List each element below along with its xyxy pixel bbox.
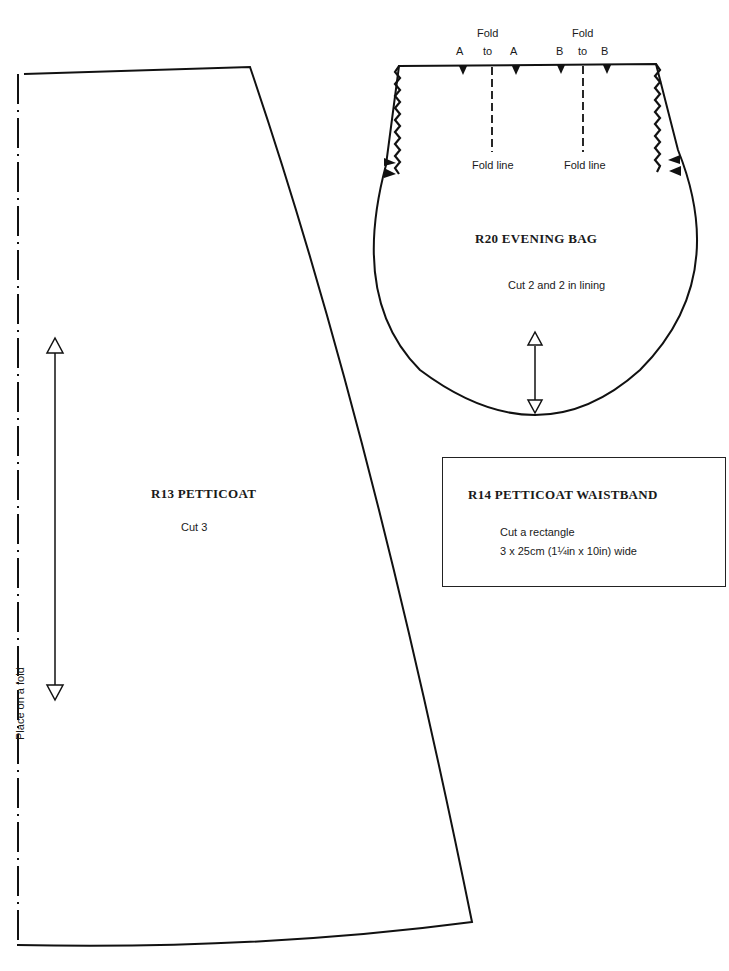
notch-b-right: [603, 65, 611, 74]
fold-a-label: Fold: [477, 27, 498, 39]
waistband-line2: 3 x 25cm (1¼in x 10in) wide: [500, 545, 637, 557]
fold-b-label: Fold: [572, 27, 593, 39]
waistband-line1: Cut a rectangle: [500, 526, 575, 538]
petticoat-grainline-arrow-icon: [47, 338, 63, 700]
right-gather-edge: [655, 64, 660, 172]
notch-markers: [384, 65, 681, 178]
fold-line-b-label: Fold line: [564, 159, 606, 171]
fold-b-letter-right: B: [601, 45, 608, 57]
fold-line-a-label: Fold line: [472, 159, 514, 171]
fold-b-to: to: [578, 45, 587, 57]
petticoat-outline: [17, 67, 472, 946]
evening-bag-title: R20 EVENING BAG: [475, 231, 597, 247]
waistband-title: R14 PETTICOAT WAISTBAND: [468, 487, 658, 503]
notch-a-left: [459, 66, 467, 75]
fold-a-letter-left: A: [456, 45, 463, 57]
notch-side-left-2: [384, 168, 396, 178]
notch-side-left-1: [384, 158, 396, 166]
bag-grainline-arrow-icon: [528, 332, 542, 413]
evening-bag-cut: Cut 2 and 2 in lining: [508, 279, 605, 291]
fold-b-letter-left: B: [556, 45, 563, 57]
place-on-fold-label: Place on a fold: [14, 667, 26, 740]
fold-a-letter-right: A: [510, 45, 517, 57]
notch-a-right: [512, 66, 520, 75]
notch-b-left: [557, 65, 565, 74]
waistband-box: [442, 457, 726, 587]
petticoat-cut: Cut 3: [181, 521, 207, 533]
notch-side-right-2: [669, 166, 681, 176]
fold-a-to: to: [483, 45, 492, 57]
left-gather-edge: [395, 66, 400, 174]
petticoat-piece: [17, 67, 472, 946]
notch-side-right-1: [668, 155, 680, 164]
petticoat-title: R13 PETTICOAT: [151, 486, 256, 502]
